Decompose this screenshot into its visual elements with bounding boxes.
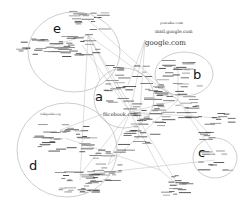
cluster-c-label: c	[198, 146, 205, 159]
domain-label: wikipedia.org	[40, 113, 61, 116]
cluster-b-label: b	[193, 68, 201, 81]
cluster-e-outline	[28, 12, 120, 92]
domain-label: facebook.com	[103, 112, 138, 117]
cluster-outlines	[17, 12, 237, 197]
network-diagram	[0, 0, 250, 215]
cluster-e-label: e	[53, 22, 61, 35]
domain-label: google.com	[145, 40, 186, 47]
domain-label: mail.google.com	[155, 30, 192, 35]
cluster-d-label: d	[29, 159, 37, 172]
cluster-a-label: a	[95, 90, 103, 103]
domain-label: youtube.com	[160, 22, 183, 26]
cluster-b-outline	[155, 52, 213, 96]
graph-node-labels	[16, 11, 236, 196]
